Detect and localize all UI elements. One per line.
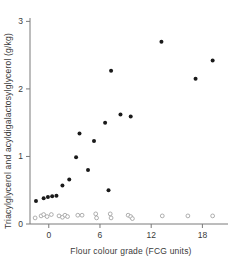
x-tick-label: 12 (146, 230, 156, 240)
data-point-acyldigalactosylglycerol (66, 215, 70, 219)
data-point-acyldigalactosylglycerol (49, 213, 53, 217)
x-tick-label: 6 (98, 230, 103, 240)
y-axis: 0123 (18, 16, 30, 229)
data-point-acyldigalactosylglycerol (45, 215, 49, 219)
data-point-acyldigalactosylglycerol (211, 214, 215, 218)
data-point-triacylglycerol (46, 195, 50, 199)
data-point-triacylglycerol (60, 184, 64, 188)
y-tick-group: 0123 (18, 16, 30, 229)
data-point-acyldigalactosylglycerol (95, 216, 99, 220)
x-axis: 061218 (30, 224, 228, 240)
data-point-triacylglycerol (103, 121, 107, 125)
data-point-triacylglycerol (50, 194, 54, 198)
data-point-acyldigalactosylglycerol (80, 213, 84, 217)
data-point-triacylglycerol (78, 132, 82, 136)
plot-canvas: 0123 061218 Flour colour grade (FCG unit… (0, 0, 236, 262)
data-point-acyldigalactosylglycerol (33, 216, 37, 220)
series-triacylglycerol (34, 40, 215, 203)
data-point-acyldigalactosylglycerol (186, 214, 190, 218)
data-point-triacylglycerol (109, 69, 113, 73)
data-point-acyldigalactosylglycerol (94, 212, 98, 216)
data-point-acyldigalactosylglycerol (108, 212, 112, 216)
data-point-triacylglycerol (42, 196, 46, 200)
data-point-triacylglycerol (129, 115, 133, 119)
data-point-triacylglycerol (159, 40, 163, 44)
series-acyldigalactosylglycerol (33, 212, 214, 221)
y-tick-label: 1 (18, 151, 23, 161)
data-point-triacylglycerol (118, 113, 122, 117)
data-point-acyldigalactosylglycerol (109, 216, 113, 220)
x-tick-label: 0 (46, 230, 51, 240)
data-point-triacylglycerol (67, 177, 71, 181)
data-point-acyldigalactosylglycerol (131, 217, 135, 221)
data-point-triacylglycerol (34, 199, 38, 203)
x-tick-group: 061218 (46, 224, 207, 240)
y-tick-label: 2 (18, 84, 23, 94)
data-point-triacylglycerol (211, 59, 215, 63)
data-point-triacylglycerol (86, 168, 90, 172)
data-point-triacylglycerol (74, 155, 78, 159)
scatter-plot-figure: 0123 061218 Flour colour grade (FCG unit… (0, 0, 236, 262)
data-point-triacylglycerol (54, 194, 58, 198)
data-point-acyldigalactosylglycerol (76, 213, 80, 217)
y-tick-label: 0 (18, 219, 23, 229)
y-axis-title: Triacylglycerol and acyldigalactosylglyc… (3, 33, 13, 229)
data-point-triacylglycerol (107, 188, 111, 192)
x-axis-title: Flour colour grade (FCG units) (70, 246, 191, 256)
x-tick-label: 18 (198, 230, 208, 240)
data-point-acyldigalactosylglycerol (160, 214, 164, 218)
y-tick-label: 3 (18, 16, 23, 26)
data-point-triacylglycerol (92, 139, 96, 143)
data-point-triacylglycerol (194, 77, 198, 81)
